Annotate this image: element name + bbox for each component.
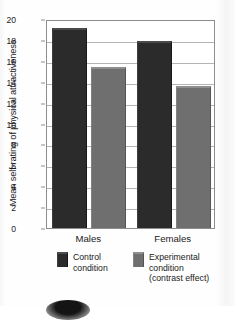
- y-axis-tick-mark: [41, 103, 45, 104]
- plot-area: [46, 20, 215, 229]
- y-axis-tick-mark: [41, 208, 45, 209]
- y-axis-tick-mark: [41, 61, 45, 62]
- legend-item-experimental: Experimental condition (contrast effect): [133, 252, 209, 284]
- legend-item-control-label: Control condition: [73, 252, 108, 273]
- y-axis-tick-label: 14: [0, 78, 16, 88]
- y-axis-tick-mark: [41, 20, 45, 21]
- y-axis-tick-label: 4: [0, 182, 16, 192]
- x-axis-tick-label: Males: [75, 233, 101, 244]
- legend-item-experimental-label: Experimental condition (contrast effect): [149, 252, 209, 284]
- legend: Control condition Experimental condition…: [0, 252, 235, 298]
- y-axis-tick-mark: [41, 166, 45, 167]
- y-axis-tick-mark: [41, 187, 45, 188]
- bar-females-control: [137, 41, 172, 228]
- y-axis-tick-mark: [41, 145, 45, 146]
- light-swatch-icon: [133, 252, 144, 267]
- y-axis-tick-label: 6: [0, 161, 16, 171]
- y-axis-tick-label: 2: [0, 203, 16, 213]
- bar-males-control: [52, 28, 87, 228]
- y-axis-tick-label: 12: [0, 99, 16, 109]
- bar-males-experimental: [91, 67, 126, 228]
- dark-swatch-icon: [57, 252, 68, 267]
- y-axis-tick-label: 16: [0, 57, 16, 67]
- y-axis-tick-label: 20: [0, 15, 16, 25]
- y-axis-tick-mark: [41, 124, 45, 125]
- cropped-page-artifact: [46, 300, 90, 320]
- bar-females-experimental: [176, 86, 211, 228]
- y-axis-tick-label: 18: [0, 36, 16, 46]
- x-axis-tick-label: Females: [154, 233, 191, 244]
- y-axis-tick-mark: [41, 40, 45, 41]
- y-axis-tick-mark: [41, 82, 45, 83]
- y-axis-tick-label: 10: [0, 120, 16, 130]
- y-axis-tick-label: 0: [0, 224, 16, 234]
- y-axis-tick-mark: [41, 229, 45, 230]
- legend-item-control: Control condition: [57, 252, 108, 273]
- y-axis-tick-label: 8: [0, 140, 16, 150]
